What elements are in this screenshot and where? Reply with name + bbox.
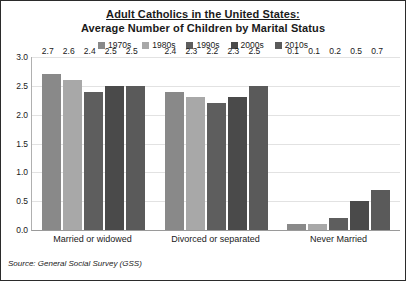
bar[interactable]: 2.5 <box>249 86 268 230</box>
bar-group-1: 2.42.32.22.32.5 <box>155 57 278 230</box>
source-note: Source: General Social Survey (GSS) <box>8 259 142 268</box>
legend-swatch-icon <box>275 42 282 49</box>
bar[interactable]: 0.1 <box>308 224 327 230</box>
page-title: Adult Catholics in the United States: <box>1 7 405 21</box>
bar-group-0: 2.72.62.42.52.5 <box>32 57 155 230</box>
bar-value-label: 2.5 <box>249 46 261 56</box>
bar-value-label: 0.5 <box>350 46 362 56</box>
bar[interactable]: 0.7 <box>371 190 390 230</box>
bar-column: 2.4 <box>165 57 184 230</box>
y-axis-tick-label: 1.0 <box>16 167 28 177</box>
bar-column: 2.5 <box>105 57 124 230</box>
bar-column: 0.1 <box>308 57 327 230</box>
x-axis-category-labels: Married or widowedDivorced or separatedN… <box>31 234 400 244</box>
bar[interactable]: 2.3 <box>186 97 205 230</box>
bar-column: 2.4 <box>84 57 103 230</box>
y-axis-tick-label: 1.5 <box>16 139 28 149</box>
chart-legend: 1970s1980s1990s2000s2010s <box>1 40 405 50</box>
bar-value-label: 2.7 <box>42 46 54 56</box>
chart-container: Adult Catholics in the United States: Av… <box>0 0 406 281</box>
bar-value-label: 2.3 <box>228 46 240 56</box>
bar-column: 2.6 <box>63 57 82 230</box>
category-label-2: Never Married <box>277 234 400 244</box>
y-axis-tick-label: 2.0 <box>16 110 28 120</box>
bar[interactable]: 0.2 <box>329 218 348 230</box>
bar[interactable]: 0.5 <box>350 201 369 230</box>
bar-column: 2.7 <box>42 57 61 230</box>
bar-column: 0.7 <box>371 57 390 230</box>
bar[interactable]: 2.5 <box>126 86 145 230</box>
y-axis-tick-label: 2.5 <box>16 81 28 91</box>
bar[interactable]: 2.7 <box>42 74 61 230</box>
bar-column: 2.5 <box>249 57 268 230</box>
bar-value-label: 0.2 <box>329 46 341 56</box>
bar[interactable]: 0.1 <box>287 224 306 230</box>
y-axis-tick-label: 0.0 <box>16 225 28 235</box>
bar-group-2: 0.10.10.20.50.7 <box>277 57 400 230</box>
y-axis-tick-label: 0.5 <box>16 196 28 206</box>
bar[interactable]: 2.5 <box>105 86 124 230</box>
bar-value-label: 0.1 <box>287 46 299 56</box>
bar-column: 2.5 <box>126 57 145 230</box>
bar[interactable]: 2.4 <box>84 92 103 230</box>
chart-title-block: Adult Catholics in the United States: Av… <box>1 7 405 35</box>
chart-subtitle: Average Number of Children by Marital St… <box>1 21 405 35</box>
bar-value-label: 2.5 <box>105 46 117 56</box>
y-axis-tick-label: 3.0 <box>16 52 28 62</box>
bar-value-label: 2.6 <box>63 46 75 56</box>
bar[interactable]: 2.6 <box>63 80 82 230</box>
bar-value-label: 2.2 <box>207 46 219 56</box>
bar[interactable]: 2.4 <box>165 92 184 230</box>
legend-swatch-icon <box>142 42 149 49</box>
bar-column: 0.2 <box>329 57 348 230</box>
bar-column: 2.3 <box>228 57 247 230</box>
bar[interactable]: 2.2 <box>207 103 226 230</box>
bar-column: 0.5 <box>350 57 369 230</box>
bar-value-label: 0.1 <box>308 46 320 56</box>
bar-value-label: 2.5 <box>126 46 138 56</box>
category-label-1: Divorced or separated <box>154 234 277 244</box>
bar-value-label: 2.3 <box>186 46 198 56</box>
plot-area: 0.00.51.01.52.02.53.0 2.72.62.42.52.52.4… <box>31 57 400 231</box>
bar-column: 2.3 <box>186 57 205 230</box>
bar-column: 2.2 <box>207 57 226 230</box>
bar-value-label: 0.7 <box>371 46 383 56</box>
bar-value-label: 2.4 <box>165 46 177 56</box>
bar-column: 0.1 <box>287 57 306 230</box>
bar[interactable]: 2.3 <box>228 97 247 230</box>
category-label-0: Married or widowed <box>31 234 154 244</box>
bar-value-label: 2.4 <box>84 46 96 56</box>
bar-groups: 2.72.62.42.52.52.42.32.22.32.50.10.10.20… <box>32 57 400 230</box>
